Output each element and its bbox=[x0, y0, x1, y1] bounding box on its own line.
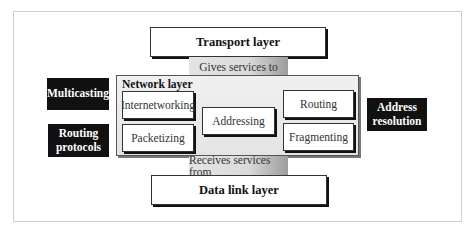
address-resolution-label: Address resolution bbox=[373, 101, 422, 127]
routing-label: Routing bbox=[300, 98, 337, 110]
transport-layer-label: Transport layer bbox=[196, 35, 280, 50]
addressing-label: Addressing bbox=[212, 115, 264, 127]
transport-layer-box: Transport layer bbox=[150, 27, 326, 57]
multicasting-box: Multicasting bbox=[47, 78, 109, 110]
packetizing-box: Packetizing bbox=[122, 124, 194, 152]
gives-services-connector: Gives services to bbox=[189, 57, 288, 76]
addressing-box: Addressing bbox=[202, 107, 275, 135]
packetizing-label: Packetizing bbox=[131, 132, 185, 144]
routing-protocols-label: Routing protocols bbox=[54, 127, 103, 153]
data-link-layer-label: Data link layer bbox=[199, 183, 279, 198]
network-layer-title: Network layer bbox=[122, 78, 193, 90]
fragmenting-box: Fragmenting bbox=[283, 123, 354, 151]
fragmenting-label: Fragmenting bbox=[289, 131, 348, 143]
internetworking-box: Internetworking bbox=[122, 91, 194, 119]
receives-services-connector: Receives services from bbox=[189, 156, 288, 175]
internetworking-label: Internetworking bbox=[121, 99, 195, 111]
address-resolution-box: Address resolution bbox=[367, 98, 427, 131]
multicasting-label: Multicasting bbox=[47, 87, 109, 100]
data-link-layer-box: Data link layer bbox=[151, 175, 327, 205]
gives-services-label: Gives services to bbox=[199, 61, 278, 73]
routing-box: Routing bbox=[283, 90, 354, 118]
routing-protocols-box: Routing protocols bbox=[48, 124, 109, 157]
receives-services-label: Receives services from bbox=[189, 154, 288, 178]
